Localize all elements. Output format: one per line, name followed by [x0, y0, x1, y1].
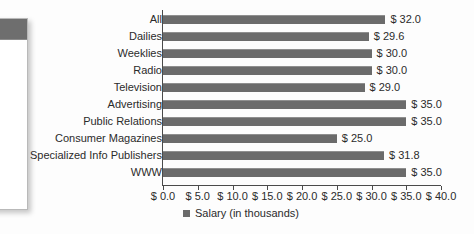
chart-row: Public Relations$ 35.0: [0, 113, 474, 130]
bar[interactable]: [163, 151, 384, 160]
x-axis-tick-label: $ 15.0: [252, 190, 283, 202]
bar-value-label: $ 29.6: [374, 28, 405, 45]
bar-value-label: $ 25.0: [342, 130, 373, 147]
category-label: Television: [114, 79, 162, 96]
bar-track: $ 35.0: [163, 96, 474, 113]
bar-track: $ 30.0: [163, 45, 474, 62]
bar-track: $ 25.0: [163, 130, 474, 147]
legend-label: Salary (in thousands): [195, 207, 299, 219]
bar-track: $ 31.8: [163, 147, 474, 164]
bar-track: $ 30.0: [163, 62, 474, 79]
x-axis-tick-label: $ 40.0: [426, 190, 457, 202]
chart-row: Consumer Magazines$ 25.0: [0, 130, 474, 147]
bar[interactable]: [163, 117, 406, 126]
bar[interactable]: [163, 49, 372, 58]
bar[interactable]: [163, 100, 406, 109]
category-label: Radio: [133, 62, 162, 79]
category-label: All: [150, 11, 162, 28]
bar-track: $ 35.0: [163, 113, 474, 130]
salary-bar-chart: All$ 32.0Dailies$ 29.6Weeklies$ 30.0Radi…: [0, 0, 474, 234]
legend-swatch-icon: [183, 210, 190, 217]
bar-value-label: $ 35.0: [411, 113, 442, 130]
category-label: Weeklies: [118, 45, 162, 62]
bar[interactable]: [163, 83, 365, 92]
bar[interactable]: [163, 134, 337, 143]
x-axis-tick-label: $ 30.0: [356, 190, 387, 202]
bar-value-label: $ 35.0: [411, 96, 442, 113]
chart-legend: Salary (in thousands): [0, 207, 474, 219]
category-label: Dailies: [129, 28, 162, 45]
y-axis-line: [162, 10, 163, 186]
category-label: Consumer Magazines: [55, 130, 162, 147]
chart-row: Radio$ 30.0: [0, 62, 474, 79]
x-axis-tick-label: $ 10.0: [217, 190, 248, 202]
category-label: WWW: [131, 164, 162, 181]
bar-value-label: $ 30.0: [377, 62, 408, 79]
chart-row: Advertising$ 35.0: [0, 96, 474, 113]
bar[interactable]: [163, 66, 372, 75]
bar-value-label: $ 31.8: [389, 147, 420, 164]
chart-row: Specialized Info Publishers$ 31.8: [0, 147, 474, 164]
chart-row: Weeklies$ 30.0: [0, 45, 474, 62]
bar[interactable]: [163, 15, 385, 24]
bar-value-label: $ 35.0: [411, 164, 442, 181]
chart-plot-area: All$ 32.0Dailies$ 29.6Weeklies$ 30.0Radi…: [0, 11, 474, 181]
bar-track: $ 29.0: [163, 79, 474, 96]
x-axis-tick-label: $ 35.0: [391, 190, 422, 202]
x-axis-tick-label: $ 20.0: [287, 190, 318, 202]
bar-track: $ 32.0: [163, 11, 474, 28]
bar-value-label: $ 29.0: [370, 79, 401, 96]
bar[interactable]: [163, 32, 369, 41]
bar-track: $ 29.6: [163, 28, 474, 45]
bar-track: $ 35.0: [163, 164, 474, 181]
bar-value-label: $ 32.0: [390, 11, 421, 28]
x-axis-tick-label: $ 5.0: [186, 190, 210, 202]
chart-row: All$ 32.0: [0, 11, 474, 28]
bar[interactable]: [163, 168, 406, 177]
legend-entry-salary: Salary (in thousands): [183, 207, 299, 219]
x-axis-tick-label: $ 0.0: [151, 190, 175, 202]
bar-value-label: $ 30.0: [377, 45, 408, 62]
chart-row: Television$ 29.0: [0, 79, 474, 96]
x-axis-tick-label: $ 25.0: [321, 190, 352, 202]
category-label: Public Relations: [83, 113, 162, 130]
category-label: Specialized Info Publishers: [30, 147, 162, 164]
category-label: Advertising: [108, 96, 162, 113]
chart-row: Dailies$ 29.6: [0, 28, 474, 45]
chart-row: WWW$ 35.0: [0, 164, 474, 181]
